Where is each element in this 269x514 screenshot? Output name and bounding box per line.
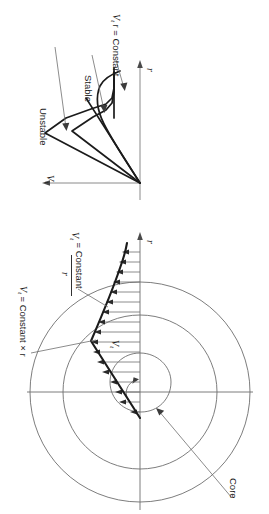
figure-root: r V t Unstable Stable V t [0, 0, 269, 514]
vortex-r-axis-label: r [145, 240, 156, 244]
annotation-vt-cor-text: = Constant [74, 243, 85, 290]
annotation-stable: Stable [83, 75, 94, 102]
annotation-vt-ctr-text: = Constant × r [18, 297, 29, 357]
annotation-core: Core [228, 478, 239, 499]
annotation-vtr-text: r = Constant [111, 25, 122, 77]
annotation-unstable: Unstable [38, 108, 49, 146]
figure-background [0, 0, 269, 514]
stability-r-axis-label: r [145, 68, 156, 72]
annotation-vt-cor-denominator: r [60, 272, 71, 276]
vortex-figure-svg: r V t Unstable Stable V t [0, 0, 269, 514]
